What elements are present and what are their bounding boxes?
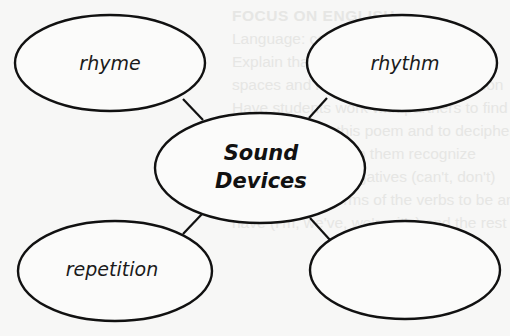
node-ellipse-empty — [310, 221, 500, 319]
center-ellipse — [155, 113, 365, 223]
connector-top-left — [183, 99, 203, 120]
node-label-rhyme: rhyme — [79, 52, 140, 74]
center-label-line2: Devices — [215, 169, 307, 193]
connector-bottom-right — [310, 218, 330, 240]
worksheet-page: FOCUS ON ENGLISH Language: contractions … — [0, 0, 510, 336]
connector-top-right — [309, 98, 327, 118]
node-label-repetition: repetition — [66, 258, 158, 280]
connector-bottom-left — [183, 214, 202, 234]
center-label-line1: Sound — [224, 141, 299, 165]
concept-web-diagram: rhyme rhythm repetition Sound Devices — [0, 0, 510, 336]
node-label-rhythm: rhythm — [370, 52, 439, 74]
